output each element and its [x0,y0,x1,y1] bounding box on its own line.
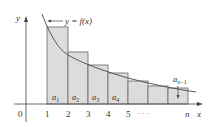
x-axis-arrow-icon [197,102,203,106]
tick-2: 2 [66,109,71,119]
diagram: y x 0 1 2 3 4 5 · · · n a1 a2 a3 a4 an−1… [0,0,209,127]
rectangles [47,27,188,104]
y-axis-arrow-icon [24,16,28,22]
x-tick-labels: 1 2 3 4 5 · · · n [45,109,190,119]
tick-ellipsis: · · · [138,110,149,118]
origin-label: 0 [18,109,23,119]
bar-1 [47,27,68,104]
tick-n: n [185,109,190,119]
bar-6 [148,86,168,104]
tick-3: 3 [86,109,91,119]
curve-label: y = f(x) [64,16,92,26]
tick-1: 1 [45,109,50,119]
curve-leader-arrow-icon [47,20,51,23]
y-axis-label: y [15,13,20,23]
tick-5: 5 [126,109,131,119]
x-axis-label: x [196,109,201,119]
label-an-1: an−1 [173,74,187,85]
bar-5 [128,81,148,104]
tick-4: 4 [106,109,111,119]
